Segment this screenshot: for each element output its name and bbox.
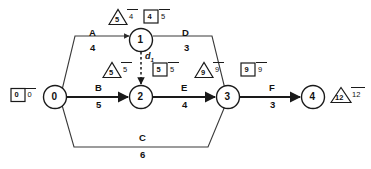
triangle-value-node1-outer: 4 — [129, 13, 133, 21]
box-value-node3-outer: 9 — [258, 66, 262, 74]
dummy-activity-label: d1 — [145, 52, 154, 63]
box-value-node3-inner: 9 — [245, 66, 249, 74]
node-label-4: 4 — [310, 92, 316, 102]
activity-duration-f: 3 — [270, 100, 275, 110]
activity-duration-a: 4 — [90, 43, 95, 53]
node-label-0: 0 — [52, 92, 58, 102]
triangle-value-node2-inner: 5 — [109, 69, 113, 77]
network-diagram: 0 1 2 3 4 A 4 B 5 C 6 D 3 E 4 F 3 d1 0 0… — [0, 0, 371, 169]
box-value-node0-inner: 0 — [15, 91, 19, 99]
triangle-value-node4-outer: 12 — [352, 91, 360, 99]
activity-label-a: A — [89, 28, 96, 38]
triangle-value-node2-outer: 5 — [123, 66, 127, 74]
triangle-value-node4-inner: 12 — [335, 94, 343, 102]
activity-label-c: C — [139, 133, 146, 143]
node-label-3: 3 — [225, 92, 231, 102]
activity-duration-b: 5 — [96, 100, 101, 110]
triangle-value-node3-outer: 9 — [215, 66, 219, 74]
dummy-activity-subscript: 1 — [151, 57, 154, 63]
activity-duration-d: 3 — [184, 43, 189, 53]
activity-label-e: E — [181, 83, 188, 93]
box-value-node1-inner: 4 — [148, 13, 152, 21]
box-value-node2-inner: 5 — [157, 66, 161, 74]
activity-label-b: B — [95, 83, 102, 93]
box-value-node0-outer: 0 — [28, 91, 32, 99]
activity-label-d: D — [182, 28, 189, 38]
node-label-2: 2 — [138, 92, 144, 102]
activity-label-f: F — [269, 83, 275, 93]
activity-duration-e: 4 — [182, 100, 187, 110]
activity-duration-c: 6 — [140, 150, 145, 160]
box-value-node2-outer: 5 — [170, 66, 174, 74]
triangle-value-node3-inner: 9 — [201, 69, 205, 77]
node-label-1: 1 — [138, 35, 144, 45]
box-value-node1-outer: 5 — [161, 13, 165, 21]
triangle-value-node1-inner: 5 — [115, 16, 119, 24]
